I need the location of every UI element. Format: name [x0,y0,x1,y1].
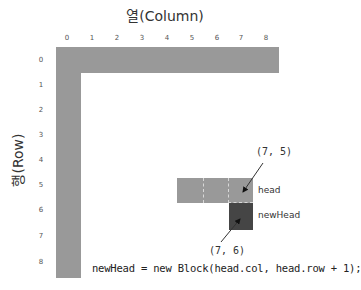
col-tick-0: 0 [65,34,69,42]
col-tick-8: 8 [264,34,268,42]
col-tick-2: 2 [115,34,119,42]
col-tick-6: 6 [215,34,219,42]
newhead-coordinate: (7, 6) [209,245,245,256]
left-column-body [56,47,81,278]
col-tick-4: 4 [165,34,169,42]
row-tick-2: 2 [39,106,43,114]
col-tick-3: 3 [140,34,144,42]
newhead-label: newHead [258,210,300,220]
col-tick-1: 1 [90,34,94,42]
cell-divider [203,178,204,203]
new-head-block [229,203,253,230]
row-tick-0: 0 [39,56,43,64]
row-axis-title: 행(Row) [7,133,27,186]
head-segment [177,178,253,203]
row-tick-3: 3 [39,131,43,139]
code-line: newHead = new Block(head.col, head.row +… [92,262,361,274]
col-tick-7: 7 [239,34,243,42]
cell-divider [228,178,229,203]
row-tick-4: 4 [39,156,43,164]
column-axis-title: 열(Column) [0,5,330,25]
head-coordinate: (7, 5) [256,146,292,157]
row-tick-6: 6 [39,206,43,214]
col-tick-5: 5 [190,34,194,42]
row-tick-1: 1 [39,81,43,89]
row-tick-8: 8 [39,258,43,266]
head-label: head [258,185,280,195]
top-row-body [56,47,279,73]
row-tick-7: 7 [39,232,43,240]
row-tick-5: 5 [39,181,43,189]
